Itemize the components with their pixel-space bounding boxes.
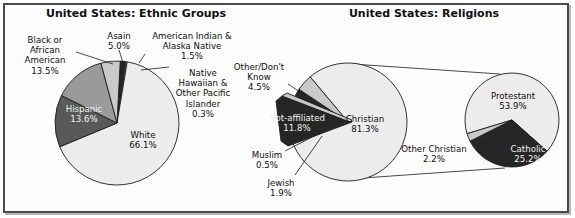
slice-label-white: White66.1% [129,130,156,150]
slice-label-black-or-african-american: Black orAfricanAmerican13.5% [25,35,66,76]
slice-label-native-hawaiian-other-pacific-islander: NativeHawaiian &Other PacificIslander0.3… [176,68,231,119]
page-title-ethnic-groups: United States: Ethnic Groups [46,7,226,20]
slice-label-american-indian-alaska-native: American Indian &Alaska Native1.5% [152,31,232,61]
slice-label-other-christian: Other Christian2.2% [401,144,466,164]
slice-label-other-don-t-know: Other/Don'tKnow4.5% [234,62,285,92]
charts-canvas: United States: Ethnic Groups United Stat… [0,0,575,218]
leader-black-african-american [76,52,113,64]
slice-label-catholic: Catholic25.2% [511,144,546,164]
slice-label-asain: Asain5.0% [107,31,130,51]
leader-american-indian [139,54,145,63]
page-title-religions: United States: Religions [349,7,500,20]
figure-root: United States: Ethnic Groups United Stat… [0,0,575,218]
slice-label-hispanic: Hispanic13.6% [66,104,103,124]
slice-label-jewish: Jewish1.9% [266,178,294,198]
slice-label-muslim: Muslim0.5% [252,150,283,170]
slice-label-christian: Christian81.3% [346,114,384,134]
